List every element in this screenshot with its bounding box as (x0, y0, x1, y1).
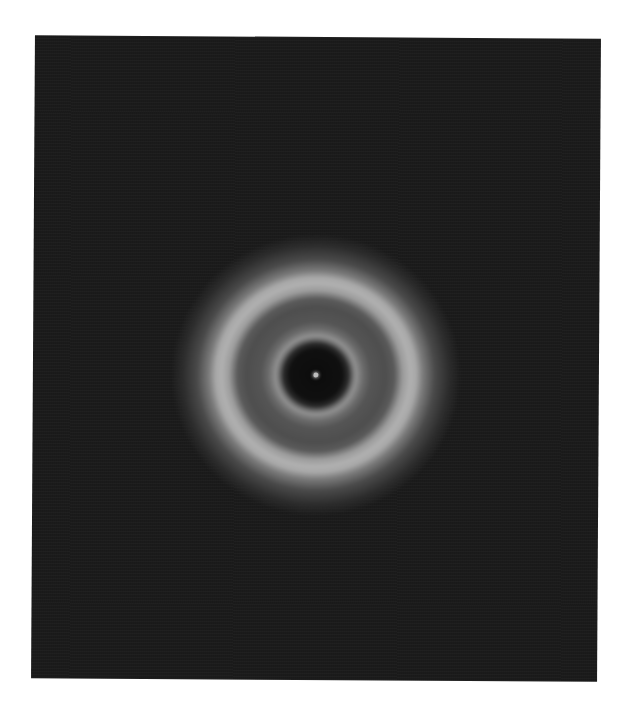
central-beam-spot (313, 372, 318, 377)
diffraction-photo: Grayscale diffraction ring pattern on da… (31, 35, 601, 681)
